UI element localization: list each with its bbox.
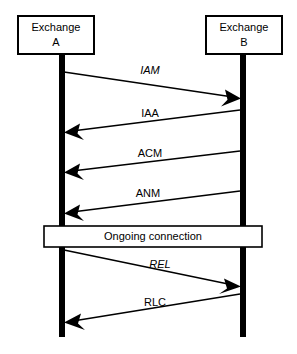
message-anm-label: ANM [136,187,160,199]
participant-exchange-a-label-line2: A [52,36,60,48]
message-acm: ACM [64,147,240,180]
message-iam-label: IAM [140,64,160,76]
message-acm-arrowhead [64,164,84,181]
message-rlc: RLC [64,294,240,330]
message-rlc-label: RLC [144,296,166,308]
band-ongoing-connection: Ongoing connection [44,226,262,247]
sequence-diagram: IAM IAA ACM ANM Ongoing connection [0,0,297,354]
message-rel-arrowhead [219,279,241,295]
band-ongoing-connection-label: Ongoing connection [104,230,202,242]
message-rlc-arrowhead [64,314,85,331]
message-anm: ANM [64,187,240,221]
participant-exchange-a-label-line1: Exchange [32,21,81,33]
message-rel-label: REL [149,258,170,270]
participant-exchange-b: Exchange B [206,16,282,54]
sequence-diagram-canvas: IAM IAA ACM ANM Ongoing connection [0,0,297,354]
message-iam: IAM [64,64,241,107]
message-iaa-label: IAA [141,107,159,119]
participant-exchange-b-label-line2: B [240,36,247,48]
participant-exchange-b-label-line1: Exchange [220,21,269,33]
message-anm-arrowhead [64,205,84,222]
message-iaa: IAA [64,107,240,140]
message-iaa-arrowhead [64,124,84,141]
participant-exchange-a: Exchange A [18,16,94,54]
message-acm-label: ACM [138,147,162,159]
message-rel: REL [64,250,241,294]
message-iam-arrowhead [221,90,241,107]
